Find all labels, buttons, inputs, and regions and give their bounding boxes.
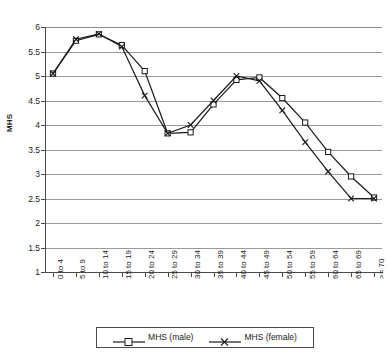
data-point-marker-cross	[325, 169, 331, 175]
x-axis-tick-label: 20 to 24	[148, 250, 156, 279]
data-point-marker-cross	[302, 139, 308, 145]
x-axis-tick-label: >= 70	[378, 259, 386, 279]
data-point-marker-square	[188, 130, 193, 135]
y-axis-tick	[41, 52, 46, 53]
data-point-marker-square	[348, 174, 353, 179]
x-axis-tick	[374, 273, 375, 277]
x-axis-tick	[53, 273, 54, 277]
x-axis-tick	[191, 273, 192, 277]
legend-square-marker-icon	[113, 333, 145, 343]
y-axis-tick	[41, 223, 46, 224]
legend-label-female: MHS (female)	[244, 333, 296, 342]
x-axis-tick-label: 45 to 49	[263, 250, 271, 279]
x-axis-tick-label: 15 to 19	[125, 250, 133, 279]
x-axis-tick-label: 35 to 39	[217, 250, 225, 279]
x-axis-tick-label: 55 to 59	[309, 250, 317, 279]
data-point-marker-square	[371, 195, 376, 200]
y-axis-tick	[41, 199, 46, 200]
x-axis-tick-label: 5 to 9	[79, 259, 87, 279]
y-axis-tick	[41, 248, 46, 249]
data-point-marker-cross	[142, 93, 148, 99]
x-axis-tick	[259, 273, 260, 277]
x-axis-tick-label: 0 to 4	[57, 259, 65, 279]
legend-item-female: MHS (female)	[209, 333, 296, 343]
x-axis-tick	[214, 273, 215, 277]
x-axis-tick	[282, 273, 283, 277]
data-point-marker-cross	[188, 122, 194, 128]
y-axis-tick	[41, 101, 46, 102]
series-layer	[0, 0, 388, 355]
legend-cross-marker-icon	[209, 333, 241, 343]
legend-item-male: MHS (male)	[113, 333, 193, 343]
data-point-marker-square	[142, 69, 147, 74]
x-axis-tick-label: 65 to 69	[355, 250, 363, 279]
data-point-marker-square	[280, 95, 285, 100]
y-axis-tick	[41, 125, 46, 126]
data-point-marker-cross	[279, 108, 285, 114]
x-axis-tick-label: 60 to 64	[332, 250, 340, 279]
x-axis-tick-label: 30 to 34	[194, 250, 202, 279]
legend-label-male: MHS (male)	[148, 333, 193, 342]
x-axis-tick	[236, 273, 237, 277]
data-point-marker-square	[326, 149, 331, 154]
x-axis-tick	[305, 273, 306, 277]
y-axis-tick	[41, 76, 46, 77]
x-axis-tick	[328, 273, 329, 277]
x-axis-tick-label: 50 to 54	[286, 250, 294, 279]
x-axis-tick	[122, 273, 123, 277]
x-axis-tick	[351, 273, 352, 277]
data-point-marker-square	[303, 120, 308, 125]
x-axis-tick	[145, 273, 146, 277]
x-axis-tick-label: 25 to 29	[171, 250, 179, 279]
x-axis-tick	[168, 273, 169, 277]
y-axis-tick	[41, 27, 46, 28]
series-line-male	[53, 34, 374, 197]
y-axis-tick	[41, 272, 46, 273]
y-axis-tick	[41, 174, 46, 175]
x-axis-tick	[99, 273, 100, 277]
chart-legend: MHS (male) MHS (female)	[96, 327, 314, 348]
x-axis-tick	[76, 273, 77, 277]
x-axis-tick-label: 10 to 14	[102, 250, 110, 279]
y-axis-tick	[41, 150, 46, 151]
x-axis-tick-label: 40 to 44	[240, 250, 248, 279]
line-chart: MHS 11.522.533.544.555.56 0 to 45 to 910…	[0, 0, 388, 355]
